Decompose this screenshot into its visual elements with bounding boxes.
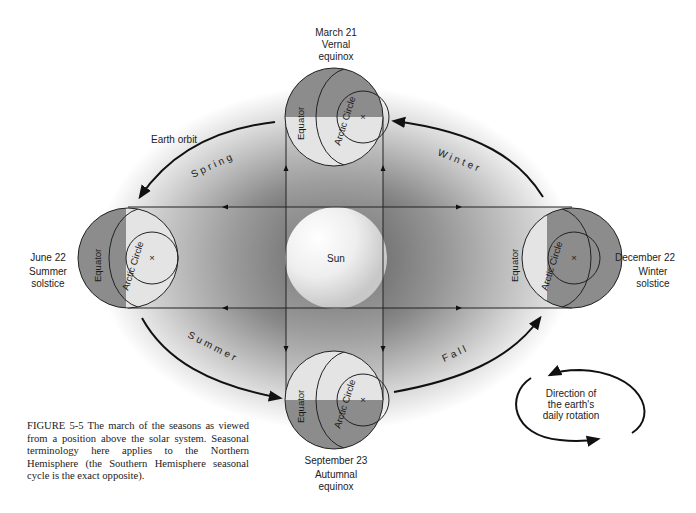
vernal-equinox-date: March 21 (315, 27, 357, 38)
rotation-indicator: Direction of the earth's daily rotation (516, 370, 644, 441)
vernal-equinox-name-1: Vernal (322, 39, 350, 50)
summer-solstice-name-2: solstice (31, 278, 65, 289)
summer-solstice-name-1: Summer (29, 266, 67, 277)
winter-solstice-date: December 22 (615, 252, 675, 263)
equator-label: Equator (295, 107, 306, 140)
rotation-note-line-2: the earth's (548, 399, 594, 410)
pole-marker-icon: × (571, 252, 577, 263)
autumnal-equinox-name-1: Autumnal (315, 469, 357, 480)
earth-orbit-label: Earth orbit (151, 134, 197, 145)
vernal-equinox-name-2: equinox (318, 51, 353, 62)
summer-solstice-date: June 22 (30, 252, 66, 263)
equator-label: Equator (92, 249, 103, 282)
pole-marker-icon: × (360, 111, 366, 122)
autumnal-equinox-name-2: equinox (318, 481, 353, 492)
autumnal-equinox-date: September 23 (305, 455, 368, 466)
pole-marker-icon: × (149, 252, 155, 263)
winter-solstice-name-1: Winter (639, 266, 669, 277)
equator-label: Equator (295, 390, 306, 423)
rotation-note-line-3: daily rotation (543, 410, 600, 421)
pole-marker-icon: × (360, 394, 366, 405)
sun-label: Sun (327, 253, 345, 264)
figure-caption: FIGURE 5-5 The march of the seasons as v… (27, 420, 249, 483)
winter-solstice-name-2: solstice (636, 278, 670, 289)
equator-label: Equator (509, 249, 520, 282)
rotation-note-line-1: Direction of (546, 388, 597, 399)
